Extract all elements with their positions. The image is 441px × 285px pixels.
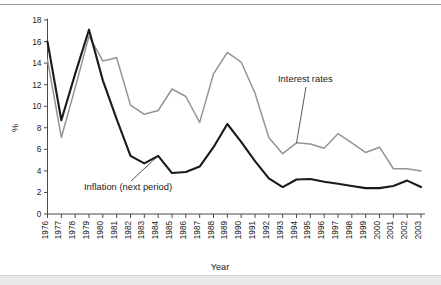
chart-figure: 024681012141618 197619771978197919801981…: [0, 0, 441, 285]
line-chart-plot: 024681012141618 197619771978197919801981…: [0, 0, 441, 285]
y-tick-label: 4: [37, 166, 42, 176]
y-tick-label: 8: [37, 123, 42, 133]
y-tick-label: 0: [37, 209, 42, 219]
x-tick-label: 1987: [193, 221, 202, 240]
x-tick-label: 2000: [373, 221, 382, 240]
x-tick-label: 1983: [137, 221, 146, 240]
x-tick-label: 1982: [124, 221, 133, 240]
x-tick-label: 1989: [220, 221, 229, 240]
y-tick-label: 16: [32, 37, 42, 47]
series-label-inflation: Inflation (next period): [84, 181, 172, 192]
x-tick-label: 1980: [96, 221, 105, 240]
x-tick-label: 1992: [262, 221, 271, 240]
x-tick-label: 1998: [345, 221, 354, 240]
x-tick-label: 2002: [400, 221, 409, 240]
y-axis-tick-labels: 024681012141618: [32, 15, 42, 219]
x-tick-label: 1981: [110, 221, 119, 240]
y-tick-label: 10: [32, 101, 42, 111]
y-tick-label: 2: [37, 187, 42, 197]
y-axis-tick-marks: [44, 20, 48, 214]
x-tick-label: 1984: [151, 221, 160, 240]
x-tick-label: 2003: [414, 221, 423, 240]
x-tick-label: 1991: [248, 221, 257, 240]
x-axis-tick-labels: 1976197719781979198019811982198319841985…: [41, 221, 424, 240]
x-tick-label: 1997: [331, 221, 340, 240]
x-tick-label: 1978: [68, 221, 77, 240]
x-tick-label: 1986: [179, 221, 188, 240]
series-line-inflation: [48, 30, 422, 188]
series-line-interest-rates: [48, 36, 422, 171]
x-tick-label: 1990: [234, 221, 243, 240]
series-label-interest-rates: Interest rates: [278, 73, 333, 84]
x-axis-title: Year: [211, 262, 230, 272]
x-tick-label: 2001: [386, 221, 395, 240]
x-axis-tick-marks: [48, 214, 422, 218]
leader-line-inflation: [131, 156, 158, 181]
x-tick-label: 1977: [54, 221, 63, 240]
y-tick-label: 12: [32, 80, 42, 90]
y-axis-title: %: [10, 124, 20, 132]
x-tick-label: 1994: [290, 221, 299, 240]
footer-band: [0, 276, 441, 285]
x-tick-label: 1976: [41, 221, 50, 240]
x-tick-label: 1993: [276, 221, 285, 240]
x-tick-label: 1979: [82, 221, 91, 240]
x-tick-label: 1995: [303, 221, 312, 240]
leader-line-interest-rates: [297, 87, 307, 143]
x-tick-label: 1985: [165, 221, 174, 240]
y-tick-label: 18: [32, 15, 42, 25]
x-tick-label: 1988: [207, 221, 216, 240]
y-tick-label: 6: [37, 144, 42, 154]
x-tick-label: 1999: [359, 221, 368, 240]
x-tick-label: 1996: [317, 221, 326, 240]
y-tick-label: 14: [32, 58, 42, 68]
